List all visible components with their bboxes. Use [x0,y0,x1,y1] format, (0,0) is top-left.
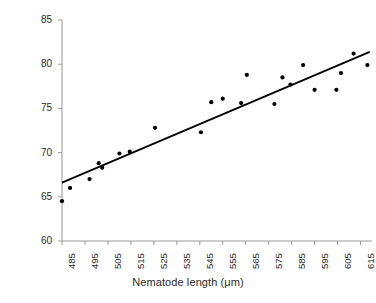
data-point [245,73,249,77]
y-tick-label: 60 [26,235,52,246]
data-point [100,166,104,170]
data-point [221,97,225,101]
x-tick-label: 525 [158,253,169,269]
data-point [365,63,369,67]
data-point [272,102,276,106]
data-point [280,75,284,79]
scatter-chart: % water content Nematode length (μm) 606… [0,0,376,303]
x-tick-label: 575 [273,253,284,269]
y-tick-label: 75 [26,102,52,113]
x-tick-label: 535 [181,253,192,269]
data-point [352,51,356,55]
x-tick-label: 505 [112,253,123,269]
x-tick-label: 565 [250,253,261,269]
data-point [97,161,101,165]
x-tick-label: 485 [66,253,77,269]
y-tick-label: 85 [26,14,52,25]
data-point [87,177,91,181]
regression-trendline [62,52,370,183]
data-point [117,151,121,155]
x-tick-label: 585 [296,253,307,269]
data-point [334,88,338,92]
x-tick-label: 515 [135,253,146,269]
data-point [339,71,343,75]
data-point [199,130,203,134]
y-tick-label: 70 [26,147,52,158]
data-point [128,150,132,154]
x-tick-label: 555 [227,253,238,269]
x-tick-label: 495 [89,253,100,269]
data-point [153,126,157,130]
data-point [209,100,213,104]
data-point [239,101,243,105]
x-tick-label: 605 [342,253,353,269]
x-tick-label: 615 [365,253,376,269]
x-axis-title: Nematode length (μm) [0,276,376,288]
x-tick-label: 545 [204,253,215,269]
data-point [288,82,292,86]
data-point [301,63,305,67]
data-point [312,88,316,92]
data-point [68,186,72,190]
data-point [60,199,64,203]
y-tick-label: 80 [26,58,52,69]
y-tick-label: 65 [26,191,52,202]
x-tick-label: 595 [319,253,330,269]
